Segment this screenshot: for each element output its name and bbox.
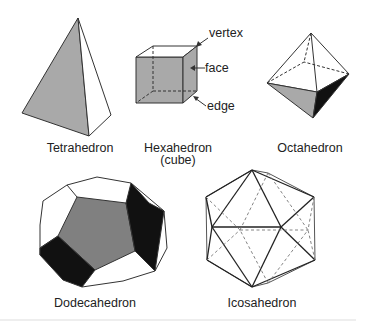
icosahedron-label: Icosahedron — [212, 296, 312, 310]
dodecahedron-shape — [40, 177, 167, 287]
face-annotation: face — [205, 61, 229, 75]
vertex-annotation: vertex — [209, 26, 243, 40]
octahedron-label: Octahedron — [260, 141, 360, 155]
icosahedron-shape — [206, 170, 315, 287]
hexahedron-shape — [136, 38, 208, 106]
hexahedron-sublabel: (cube) — [128, 153, 228, 167]
edge-annotation: edge — [207, 99, 235, 113]
tetrahedron-shape — [22, 18, 111, 136]
tetrahedron-label: Tetrahedron — [30, 141, 130, 155]
octahedron-shape — [267, 33, 349, 118]
dodecahedron-label: Dodecahedron — [45, 296, 145, 310]
